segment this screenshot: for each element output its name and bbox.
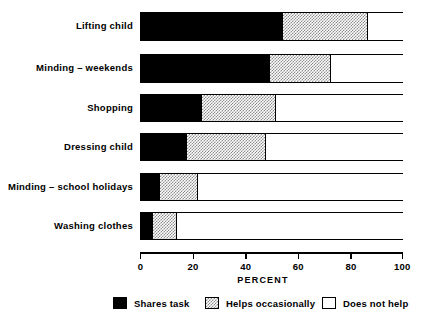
category-label-washing-clothes: Washing clothes <box>54 221 133 231</box>
chart-legend: Shares task Helps occasionally Does not … <box>0 296 422 312</box>
x-axis-tick-label-80: 80 <box>331 261 371 272</box>
x-axis-tick-label-100: 100 <box>382 261 422 272</box>
bar-segment-shares-task <box>141 213 151 239</box>
x-axis-tick <box>140 252 141 259</box>
bar-segment-shares-task <box>141 55 269 82</box>
legend-item-does-not-help: Does not help <box>322 296 408 310</box>
x-axis-tick-label-40: 40 <box>226 261 266 272</box>
bar-segment-helps-occasionally <box>270 55 330 82</box>
table-row <box>140 133 403 161</box>
legend-label-does-not-help: Does not help <box>343 298 408 309</box>
x-axis-line <box>140 252 403 254</box>
x-axis-title: PERCENT <box>237 275 288 285</box>
bar-segment-does-not-help <box>198 174 404 200</box>
table-row <box>140 212 403 240</box>
table-row <box>140 12 403 41</box>
bar-segment-shares-task <box>141 95 201 121</box>
black-swatch-icon <box>113 297 127 309</box>
bar-segment-does-not-help <box>331 55 404 82</box>
x-axis-tick-label-20: 20 <box>173 261 213 272</box>
bar-segment-shares-task <box>141 134 185 160</box>
category-label-lifting-child: Lifting child <box>76 21 133 31</box>
bar-segment-helps-occasionally <box>283 13 367 40</box>
x-axis-tick <box>350 252 351 259</box>
x-axis-tick <box>402 252 403 259</box>
legend-label-helps-occasionally: Helps occasionally <box>226 298 315 309</box>
bar-segment-does-not-help <box>276 95 404 121</box>
bar-segment-helps-occasionally <box>160 174 197 200</box>
gray-checker-swatch-icon <box>205 297 219 309</box>
category-label-minding-weekends: Minding – weekends <box>36 63 133 73</box>
white-swatch-icon <box>322 297 336 309</box>
table-row <box>140 94 403 122</box>
bar-segment-does-not-help <box>177 213 404 239</box>
bar-segment-does-not-help <box>368 13 405 40</box>
x-axis-tick <box>298 252 299 259</box>
category-label-minding-school-holidays: Minding – school holidays <box>8 182 133 192</box>
bar-segment-shares-task <box>141 174 159 200</box>
x-axis-tick <box>193 252 194 259</box>
x-axis-tick-label-60: 60 <box>278 261 318 272</box>
bar-segment-helps-occasionally <box>202 95 275 121</box>
category-label-dressing-child: Dressing child <box>64 142 133 152</box>
x-axis-tick-label-0: 0 <box>121 261 161 272</box>
x-axis-tick <box>245 252 246 259</box>
bar-segment-helps-occasionally <box>153 213 176 239</box>
category-label-shopping: Shopping <box>87 103 133 113</box>
bar-segment-helps-occasionally <box>187 134 265 160</box>
legend-label-shares-task: Shares task <box>134 298 190 309</box>
bar-segment-does-not-help <box>266 134 404 160</box>
bar-segment-shares-task <box>141 13 282 40</box>
legend-item-helps-occasionally: Helps occasionally <box>205 296 315 310</box>
table-row <box>140 54 403 83</box>
legend-item-shares-task: Shares task <box>113 296 190 310</box>
stacked-bar-chart: Lifting child Minding – weekends Shoppin… <box>0 0 422 325</box>
table-row <box>140 173 403 201</box>
x-axis-title-wrap: PERCENT <box>0 275 422 285</box>
